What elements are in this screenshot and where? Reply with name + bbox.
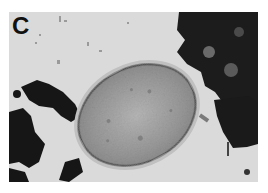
micrograph-panel: C: [9, 12, 258, 182]
panel-label: C: [12, 14, 29, 38]
micrograph-image: [9, 12, 258, 182]
